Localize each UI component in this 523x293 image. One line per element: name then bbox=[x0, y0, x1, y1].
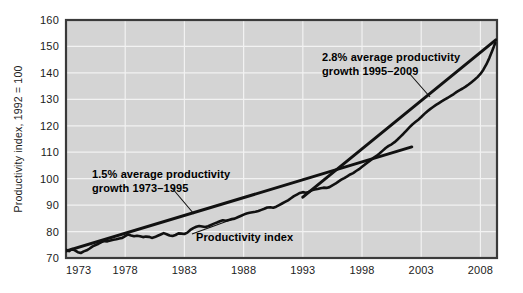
productivity-index-label: Productivity index bbox=[196, 231, 294, 243]
x-tick-1993: 1993 bbox=[290, 264, 315, 276]
productivity-chart: 708090100110120130140150160 197319781983… bbox=[0, 0, 523, 293]
x-axis-tick-labels: 19731978198319881993199820032008 bbox=[66, 264, 493, 276]
x-tick-1973: 1973 bbox=[66, 264, 91, 276]
y-tick-90: 90 bbox=[46, 199, 59, 211]
x-tick-1998: 1998 bbox=[349, 264, 374, 276]
y-tick-120: 120 bbox=[40, 120, 59, 132]
annotation-1995-2009-line2: growth 1995–2009 bbox=[322, 65, 418, 77]
y-axis-tick-labels: 708090100110120130140150160 bbox=[40, 14, 59, 264]
annotation-1973-1995-line1: 1.5% average productivity bbox=[92, 168, 231, 180]
y-tick-100: 100 bbox=[40, 173, 59, 185]
y-axis-title: Productivity index, 1992 = 100 bbox=[12, 66, 24, 213]
y-tick-150: 150 bbox=[40, 40, 59, 52]
x-tick-2003: 2003 bbox=[409, 264, 434, 276]
y-tick-80: 80 bbox=[46, 226, 59, 238]
y-tick-160: 160 bbox=[40, 14, 59, 26]
y-tick-70: 70 bbox=[46, 252, 59, 264]
x-tick-1978: 1978 bbox=[113, 264, 138, 276]
annotation-1973-1995-line2: growth 1973–1995 bbox=[92, 182, 188, 194]
x-tick-2008: 2008 bbox=[468, 264, 493, 276]
y-tick-110: 110 bbox=[41, 146, 59, 158]
x-tick-1988: 1988 bbox=[231, 264, 256, 276]
x-tick-1983: 1983 bbox=[172, 264, 197, 276]
y-tick-140: 140 bbox=[40, 67, 59, 79]
chart-canvas: 708090100110120130140150160 197319781983… bbox=[0, 0, 523, 293]
y-tick-130: 130 bbox=[40, 93, 59, 105]
annotation-1995-2009-line1: 2.8% average productivity bbox=[322, 51, 461, 63]
